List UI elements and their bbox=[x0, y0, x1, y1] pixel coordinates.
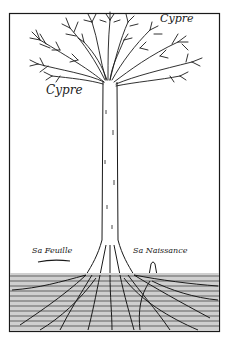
caption-leaf: Sa Feuille bbox=[32, 247, 72, 255]
title-label-top: Cypre bbox=[160, 13, 193, 24]
caption-birth: Sa Naissance bbox=[133, 247, 187, 255]
leaf-sample bbox=[38, 260, 70, 262]
tree-trunk bbox=[86, 82, 134, 275]
title-label-trunk: Cypre bbox=[46, 84, 82, 96]
ground-roots bbox=[10, 273, 219, 331]
engraving-plate bbox=[0, 0, 228, 341]
